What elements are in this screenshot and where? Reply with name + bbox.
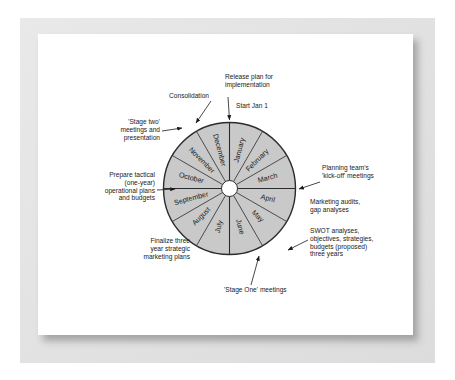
callout-text-start-jan-1: Start Jan 1 [236, 102, 268, 109]
callout-text-stage-one-meetings: 'Stage One' meetings [224, 286, 287, 294]
callout-stage-one-meetings: 'Stage One' meetings [224, 256, 287, 294]
callout-swot-analyses: SWOT analyses,objectives, strategies,bud… [288, 227, 374, 258]
callout-text-release-plan: Release plan forimplementation [225, 73, 274, 89]
callout-arrow-stage-one-meetings [251, 256, 259, 285]
callout-consolidation: Consolidation [169, 92, 211, 123]
callout-arrow-swot-analyses [288, 240, 308, 250]
callout-text-stage-two-meetings: 'Stage two'meetings andpresentation [120, 118, 160, 142]
callout-arrow-release-plan [228, 97, 230, 120]
callout-release-plan: Release plan forimplementation [225, 73, 274, 120]
callout-arrow-consolidation [196, 101, 211, 123]
figure-root: JanuaryFebruaryMarchAprilMayJuneJulyAugu… [0, 0, 455, 380]
callout-arrow-stage-two-meetings [162, 128, 182, 131]
callout-start-jan-1: Start Jan 1 [236, 102, 268, 109]
callout-text-prepare-tactical-plans: Prepare tactical(one-year)operational pl… [105, 171, 156, 202]
callout-text-finalize-three-year-plans: Finalize threeyear strategicmarketing pl… [143, 237, 190, 261]
callout-finalize-three-year-plans: Finalize threeyear strategicmarketing pl… [143, 237, 190, 261]
wheel-group: JanuaryFebruaryMarchAprilMayJuneJulyAugu… [164, 123, 296, 255]
callout-text-consolidation: Consolidation [169, 92, 209, 99]
callout-stage-two-meetings: 'Stage two'meetings andpresentation [120, 118, 182, 142]
callout-marketing-audits: Marketing audits,gap analyses [310, 198, 360, 214]
wheel-hub [222, 181, 238, 197]
callout-planning-team-kickoff: Planning team's'kick-off' meetings [299, 164, 375, 189]
callout-text-planning-team-kickoff: Planning team's'kick-off' meetings [322, 164, 375, 180]
callout-text-swot-analyses: SWOT analyses,objectives, strategies,bud… [310, 227, 374, 258]
planning-cycle-diagram: JanuaryFebruaryMarchAprilMayJuneJulyAugu… [0, 0, 455, 380]
callout-text-marketing-audits: Marketing audits,gap analyses [310, 198, 360, 214]
callout-arrow-planning-team-kickoff [299, 182, 320, 189]
